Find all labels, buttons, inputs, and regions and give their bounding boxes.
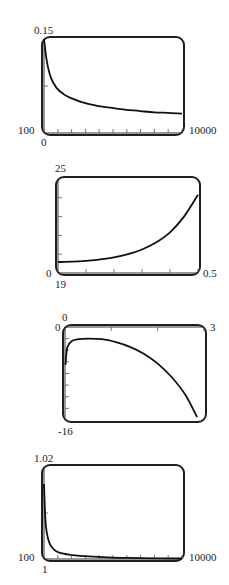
data-curve (58, 195, 198, 262)
y-min-label: -16 (58, 426, 73, 437)
data-curve (44, 39, 182, 114)
x-min-label: 100 (18, 552, 35, 563)
x-max-label: 10000 (189, 552, 217, 563)
x-min-label: 0 (46, 268, 52, 279)
x-max-label: 10000 (189, 125, 217, 136)
y-min-label: 1 (42, 564, 48, 575)
x-max-label: 3 (210, 322, 216, 333)
data-curve (66, 339, 198, 418)
y-min-label: 0 (41, 137, 47, 148)
plot-area (62, 324, 207, 423)
y-max-label: 1.02 (34, 453, 53, 464)
y-max-label: 0.15 (34, 25, 53, 36)
x-min-label: 0 (55, 322, 61, 333)
data-curve (44, 484, 182, 559)
plot-area (41, 36, 185, 136)
x-max-label: 0.5 (203, 268, 217, 279)
y-max-label: 25 (55, 163, 66, 174)
y-max-label: 0 (62, 312, 68, 323)
y-min-label: 19 (55, 279, 66, 290)
plot-area (55, 176, 201, 276)
x-min-label: 100 (18, 125, 35, 136)
plot-area (41, 464, 185, 562)
